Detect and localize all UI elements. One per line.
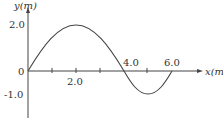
wave-curve: [28, 25, 172, 94]
x-tick-label-6: 6.0: [164, 57, 180, 68]
y-tick-label-neg1: -1.0: [4, 89, 23, 100]
x-axis-label: x(m: [205, 66, 223, 77]
wave-chart: y(m) 2.0 0 -1.0 2.0 4.0 6.0 x(m: [0, 0, 223, 122]
origin-label: 0: [18, 66, 24, 77]
y-axis-label: y(m): [13, 0, 37, 11]
x-tick-label-4: 4.0: [123, 57, 139, 68]
x-tick-label-2: 2.0: [67, 76, 83, 87]
x-axis-arrow-icon: [197, 69, 203, 73]
y-tick-label-2: 2.0: [9, 19, 25, 30]
